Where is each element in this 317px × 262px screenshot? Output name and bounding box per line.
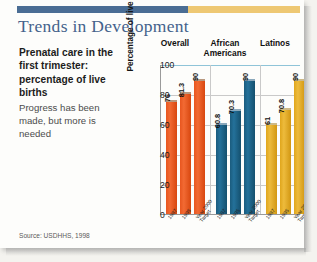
x-axis-tick: Year 2000 Target bbox=[291, 216, 302, 236]
page-title: Trends in Development bbox=[18, 16, 189, 37]
bar-value-label: 70.3 bbox=[227, 99, 236, 113]
x-axis-tick: 1987 bbox=[214, 216, 225, 236]
bar-group: 60.870.390 bbox=[210, 65, 260, 214]
bar-value-label: 70.8 bbox=[277, 99, 286, 113]
bar-group: 6170.890 bbox=[260, 65, 304, 214]
x-axis-tick: Year 2000 Target bbox=[242, 216, 253, 236]
group-header-row: Overall African Americans Latinos bbox=[150, 38, 300, 62]
caption-sub: Progress has been made, but more is need… bbox=[19, 101, 125, 141]
header-rule bbox=[17, 6, 300, 13]
x-axis-tick: 1995 bbox=[179, 216, 190, 236]
caption-block: Prenatal care in the first trimester: pe… bbox=[19, 46, 125, 140]
group-header-latinos: Latinos bbox=[250, 38, 300, 62]
page-shadow-bottom bbox=[6, 248, 306, 256]
plot-area: 7681.39060.870.3906170.890 020406080100 bbox=[138, 65, 300, 215]
y-axis-label: Percentage of live births bbox=[126, 0, 135, 84]
x-tick-group: 19871995Year 2000 Target bbox=[160, 216, 209, 236]
bar-value-label: 60.8 bbox=[213, 114, 222, 128]
bar-value-label: 90 bbox=[291, 73, 300, 81]
source-note: Source: USDHHS, 1998 bbox=[19, 232, 90, 239]
x-axis-tick: 1987 bbox=[263, 216, 274, 236]
header-rule-blue bbox=[17, 6, 188, 13]
bar[interactable]: 90 bbox=[244, 79, 255, 214]
header-rule-gold bbox=[188, 6, 300, 13]
x-axis-tick: 1987 bbox=[165, 216, 176, 236]
bar[interactable]: 61 bbox=[266, 123, 277, 215]
bar-chart: Overall African Americans Latinos Percen… bbox=[128, 38, 300, 236]
group-header-overall: Overall bbox=[150, 38, 200, 62]
bar[interactable]: 70.3 bbox=[230, 109, 241, 214]
plot-canvas: 7681.39060.870.3906170.890 bbox=[160, 65, 300, 215]
bar-value-label: 61 bbox=[263, 116, 272, 124]
page-shadow-right bbox=[304, 6, 312, 252]
bar[interactable]: 81.3 bbox=[180, 92, 191, 214]
x-axis-tick: 1995 bbox=[277, 216, 288, 236]
x-axis-tick-labels: 19871995Year 2000 Target19871995Year 200… bbox=[160, 216, 300, 236]
x-axis-tick: 1995 bbox=[228, 216, 239, 236]
slide-page: Trends in Development Prenatal care in t… bbox=[0, 0, 304, 248]
bar-value-label: 81.3 bbox=[177, 83, 186, 97]
bar-value-label: 90 bbox=[241, 73, 250, 81]
bar[interactable]: 90 bbox=[194, 79, 205, 214]
x-axis-tick: Year 2000 Target bbox=[193, 216, 204, 236]
bar[interactable]: 70.8 bbox=[280, 108, 291, 214]
bar[interactable]: 60.8 bbox=[216, 123, 227, 214]
x-tick-group: 19871995Year 2000 Target bbox=[258, 216, 304, 236]
bar[interactable]: 90 bbox=[294, 79, 304, 214]
bar-value-label: 90 bbox=[191, 73, 200, 81]
bar-group: 7681.390 bbox=[161, 65, 210, 214]
caption-lead: Prenatal care in the first trimester: pe… bbox=[19, 46, 125, 100]
bar-groups: 7681.39060.870.3906170.890 bbox=[161, 65, 300, 214]
group-header-african-americans: African Americans bbox=[200, 38, 250, 62]
x-tick-group: 19871995Year 2000 Target bbox=[209, 216, 258, 236]
